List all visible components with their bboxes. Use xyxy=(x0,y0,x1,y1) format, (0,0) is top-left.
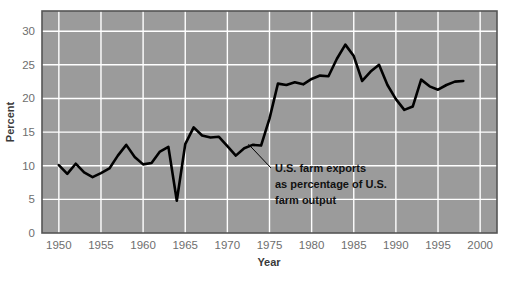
x-axis-tick-label: 1960 xyxy=(130,239,156,251)
x-axis-tick-label: 1990 xyxy=(383,239,409,251)
x-axis-tick-label: 1970 xyxy=(215,239,241,251)
x-axis-tick-label: 1955 xyxy=(88,239,114,251)
y-axis-tick-label: 15 xyxy=(22,126,35,138)
line-chart-svg: 051015202530 195019551960196519701975198… xyxy=(0,0,525,283)
annotation-line-3: farm output xyxy=(275,194,336,206)
y-axis-tick-label: 10 xyxy=(22,160,35,172)
x-axis-tick-labels: 1950195519601965197019751980198519901995… xyxy=(46,239,493,251)
y-axis-tick-label: 25 xyxy=(22,59,35,71)
x-axis-tick-label: 1995 xyxy=(425,239,451,251)
y-axis-tick-label: 0 xyxy=(29,227,35,239)
annotation-line-2: as percentage of U.S. xyxy=(275,178,387,190)
x-axis-tick-label: 1980 xyxy=(299,239,325,251)
x-axis-tick-label: 1985 xyxy=(341,239,367,251)
y-axis-title: Percent xyxy=(4,101,16,142)
y-axis-tick-label: 20 xyxy=(22,92,35,104)
x-axis-title: Year xyxy=(257,256,281,268)
chart-figure: 051015202530 195019551960196519701975198… xyxy=(0,0,525,283)
y-axis-tick-label: 30 xyxy=(22,25,35,37)
x-axis-tick-label: 1965 xyxy=(172,239,198,251)
annotation-line-1: U.S. farm exports xyxy=(275,162,366,174)
x-axis-tick-label: 2000 xyxy=(467,239,493,251)
x-axis-tick-label: 1950 xyxy=(46,239,72,251)
y-axis-tick-label: 5 xyxy=(29,193,35,205)
x-axis-tick-label: 1975 xyxy=(257,239,283,251)
